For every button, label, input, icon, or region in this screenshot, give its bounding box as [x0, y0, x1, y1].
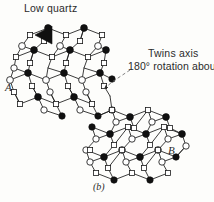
domain-a-label: A — [5, 82, 12, 93]
quartz-twinning-figure: Low quartz Twins axis 180° rotation abou… — [0, 0, 214, 202]
twins-axis-label: Twins axis — [148, 48, 198, 59]
page-title: Low quartz — [24, 3, 77, 14]
lattice-diagram — [0, 0, 214, 202]
twin-axis-leader-line — [104, 70, 130, 89]
figure-caption: (b) — [93, 182, 105, 192]
domain-b-label: B — [168, 145, 175, 156]
rotation-text: 180° rotation about — [128, 60, 214, 72]
rotation-annotation: 180° rotation about c — [128, 61, 214, 73]
domain-a-filled-atoms — [25, 25, 116, 120]
